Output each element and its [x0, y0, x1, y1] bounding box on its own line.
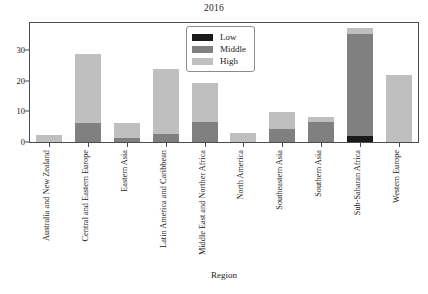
bar-group: [153, 23, 179, 142]
x-tick-label: Eastern Asia: [121, 150, 129, 262]
x-tick-label-wrap: Eastern Asia: [121, 150, 133, 262]
bar-stack: [230, 133, 256, 142]
bar-group: [114, 23, 140, 142]
x-tick-mark: [166, 143, 167, 147]
bar-stack: [386, 75, 412, 142]
x-tick-label-wrap: Southeastern Asia: [276, 150, 288, 262]
bar-group: [75, 23, 101, 142]
bar-segment-high: [153, 69, 179, 134]
bar-segment-middle: [75, 123, 101, 142]
legend-label: Low: [220, 32, 237, 42]
legend-swatch-low: [192, 34, 213, 41]
bar-group: [386, 23, 412, 142]
x-tick-mark: [282, 143, 283, 147]
legend-swatch-middle: [192, 46, 213, 53]
bar-group: [347, 23, 373, 142]
x-tick-label: Southeastern Asia: [276, 150, 284, 262]
y-tick-label: 0: [21, 137, 25, 147]
bar-group: [36, 23, 62, 142]
x-axis-title: Region: [29, 270, 419, 280]
chart-legend: LowMiddleHigh: [186, 26, 255, 72]
bar-segment-middle: [192, 122, 218, 142]
legend-label: Middle: [220, 44, 246, 54]
legend-swatch-high: [192, 58, 213, 65]
x-tick-label: Southern Asia: [315, 150, 323, 262]
y-axis-tick-labels: 0102030: [0, 23, 25, 142]
x-tick-label-wrap: Latin America and Caribbean: [160, 150, 172, 262]
bar-segment-low: [347, 136, 373, 142]
legend-label: High: [220, 56, 238, 66]
bar-group: [308, 23, 334, 142]
y-tick-label: 30: [17, 45, 26, 55]
x-tick-mark: [399, 143, 400, 147]
x-tick-mark: [243, 143, 244, 147]
bar-stack: [153, 69, 179, 142]
bar-segment-middle: [269, 129, 295, 142]
bar-stack: [114, 123, 140, 142]
bar-segment-middle: [347, 34, 373, 137]
bar-segment-high: [192, 83, 218, 122]
bar-stack: [308, 117, 334, 142]
bar-segment-middle: [153, 134, 179, 142]
bar-stack: [269, 112, 295, 143]
x-tick-label-wrap: Sub-Saharan Africa: [354, 150, 366, 262]
bar-stack: [192, 83, 218, 142]
y-tick-mark: [25, 50, 29, 51]
x-tick-label-wrap: Australia and New Zealand: [43, 150, 55, 262]
x-tick-mark: [321, 143, 322, 147]
x-tick-mark: [88, 143, 89, 147]
legend-item-high[interactable]: High: [192, 55, 246, 67]
bar-group: [269, 23, 295, 142]
y-tick-mark: [25, 142, 29, 143]
x-tick-label-wrap: Western Europe: [393, 150, 405, 262]
x-tick-label-wrap: North America: [237, 150, 249, 262]
x-axis-ticks: [30, 143, 418, 148]
bar-stack: [347, 28, 373, 142]
x-tick-mark: [205, 143, 206, 147]
legend-item-low[interactable]: Low: [192, 31, 246, 43]
x-tick-label: Australia and New Zealand: [43, 150, 51, 262]
x-tick-label-wrap: Central and Eastern Europe: [82, 150, 94, 262]
legend-item-middle[interactable]: Middle: [192, 43, 246, 55]
x-tick-label: Western Europe: [393, 150, 401, 262]
x-tick-label: Sub-Saharan Africa: [354, 150, 362, 262]
y-tick-mark: [25, 111, 29, 112]
x-tick-label: Middle East and Norther Africa: [199, 150, 207, 262]
bar-segment-high: [230, 133, 256, 142]
bar-segment-high: [114, 123, 140, 139]
bar-stack: [75, 54, 101, 142]
y-tick-label: 20: [17, 76, 26, 86]
bar-stack: [36, 135, 62, 142]
x-tick-mark: [49, 143, 50, 147]
x-tick-label: Central and Eastern Europe: [82, 150, 90, 262]
bar-segment-high: [269, 112, 295, 130]
chart-container: 2016 0102030 Australia and New ZealandCe…: [0, 0, 428, 294]
chart-title: 2016: [0, 3, 428, 13]
y-tick-mark: [25, 80, 29, 81]
bar-segment-middle: [308, 122, 334, 142]
bar-segment-high: [386, 75, 412, 142]
x-tick-label: North America: [237, 150, 245, 262]
x-tick-mark: [360, 143, 361, 147]
x-tick-label: Latin America and Caribbean: [160, 150, 168, 262]
x-tick-label-wrap: Southern Asia: [315, 150, 327, 262]
x-axis-tick-labels: Australia and New ZealandCentral and Eas…: [30, 150, 418, 262]
bar-segment-high: [36, 135, 62, 142]
x-tick-label-wrap: Middle East and Norther Africa: [199, 150, 211, 262]
bar-segment-middle: [114, 138, 140, 142]
bar-segment-high: [75, 54, 101, 123]
x-tick-mark: [127, 143, 128, 147]
y-tick-label: 10: [17, 106, 26, 116]
